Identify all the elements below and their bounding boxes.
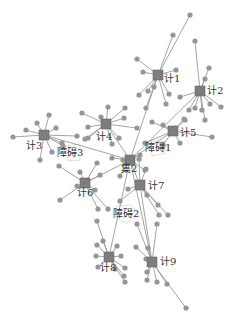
leaf-node[interactable] [117,198,122,203]
leaf-node[interactable] [49,149,54,154]
leaf-edge [158,15,190,75]
network-graph: 障碍3障碍1障碍2计1计2计3计4计5集2计6计7计8计9 [0,0,235,315]
hub-node-h9[interactable] [147,257,157,267]
leaf-node[interactable] [144,277,149,282]
leaf-node[interactable] [136,156,141,161]
leaf-node[interactable] [183,305,188,310]
leaf-node[interactable] [121,115,126,120]
leaf-node[interactable] [34,120,39,125]
leaf-node[interactable] [56,163,61,168]
hub-node-h1[interactable] [153,70,163,80]
leaf-node[interactable] [202,76,207,81]
leaf-node[interactable] [97,172,102,177]
leaf-node[interactable] [140,69,145,74]
leaf-node[interactable] [156,212,161,217]
leaf-edge [152,224,157,262]
leaf-node[interactable] [181,116,186,121]
hub-label: 计1 [164,72,180,84]
leaf-node[interactable] [118,253,123,258]
hub-label: 集2 [121,162,137,174]
leaf-node[interactable] [145,245,150,250]
leaf-node[interactable] [170,32,175,37]
leaf-node[interactable] [77,169,82,174]
leaf-node[interactable] [121,273,126,278]
hub-label: 计9 [160,255,176,267]
obstacle-label: 障碍2 [113,207,139,219]
leaf-node[interactable] [151,84,156,89]
leaf-node[interactable] [46,112,51,117]
leaf-node[interactable] [136,92,141,97]
leaf-node[interactable] [163,101,168,106]
leaf-node[interactable] [93,253,98,258]
leaf-node[interactable] [122,105,127,110]
leaf-node[interactable] [192,105,197,110]
leaf-node[interactable] [94,160,99,165]
hub-node-h3[interactable] [39,130,49,140]
hub-node-h5[interactable] [168,126,178,136]
leaf-node[interactable] [10,134,15,139]
leaf-node[interactable] [125,186,130,191]
leaf-node[interactable] [218,104,223,109]
leaf-node[interactable] [37,157,42,162]
leaf-node[interactable] [155,202,160,207]
leaf-node[interactable] [143,166,148,171]
hub-label: 计5 [180,126,196,138]
leaf-node[interactable] [133,244,138,249]
leaf-node[interactable] [94,242,99,247]
leaf-node[interactable] [82,136,87,141]
leaf-node[interactable] [59,140,64,145]
hub-node-h8[interactable] [104,252,114,262]
leaf-node[interactable] [173,67,178,72]
leaf-node[interactable] [79,110,84,115]
leaf-node[interactable] [165,212,170,217]
leaf-node[interactable] [134,56,139,61]
leaf-node[interactable] [177,140,182,145]
leaf-node[interactable] [117,173,122,178]
leaf-node[interactable] [202,117,207,122]
leaf-node[interactable] [94,218,99,223]
leaf-node[interactable] [166,91,171,96]
leaf-node[interactable] [154,279,159,284]
leaf-node[interactable] [209,134,214,139]
leaf-node[interactable] [109,155,114,160]
leaf-node[interactable] [114,243,119,248]
leaf-node[interactable] [23,127,28,132]
leaf-node[interactable] [187,12,192,17]
hub-node-h4[interactable] [101,119,111,129]
leaf-node[interactable] [74,133,79,138]
leaf-node[interactable] [154,221,159,226]
leaf-node[interactable] [95,206,100,211]
leaf-node[interactable] [57,197,62,202]
leaf-node[interactable] [53,125,58,130]
leaf-node[interactable] [160,122,165,127]
hub-label: 计3 [26,139,42,151]
leaf-node[interactable] [149,119,154,124]
leaf-edge [195,41,200,91]
leaf-node[interactable] [134,221,139,226]
leaf-node[interactable] [186,107,191,112]
leaf-node[interactable] [144,192,149,197]
leaf-node[interactable] [85,124,90,129]
leaf-node[interactable] [207,101,212,106]
leaf-node[interactable] [134,125,139,130]
leaf-node[interactable] [199,107,204,112]
obstacle-label: 障碍1 [145,141,171,153]
hub-node-h7[interactable] [135,180,145,190]
hub-label: 计8 [100,261,116,273]
leaf-node[interactable] [122,279,127,284]
leaf-node[interactable] [145,88,150,93]
leaf-node[interactable] [105,104,110,109]
leaf-node[interactable] [192,38,197,43]
hub-node-h2[interactable] [195,86,205,96]
leaf-node[interactable] [116,135,121,140]
leaf-node[interactable] [164,281,169,286]
leaf-node[interactable] [105,206,110,211]
leaf-node[interactable] [177,94,182,99]
leaf-node[interactable] [144,269,149,274]
leaf-node[interactable] [206,65,211,70]
leaf-node[interactable] [109,141,114,146]
leaf-node[interactable] [143,105,148,110]
leaf-node[interactable] [100,238,105,243]
hub-label: 计2 [207,84,223,96]
leaf-node[interactable] [122,265,127,270]
